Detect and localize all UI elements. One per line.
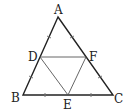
triangle-diagram: A B C D E F: [0, 0, 129, 111]
tick-marks: [29, 36, 102, 97]
label-a: A: [53, 3, 63, 17]
segment-de: [40, 57, 68, 95]
label-b: B: [11, 91, 20, 105]
label-c: C: [114, 92, 123, 106]
label-d: D: [28, 50, 38, 64]
segment-ef: [68, 57, 86, 95]
label-e: E: [63, 98, 72, 111]
label-f: F: [89, 50, 97, 64]
